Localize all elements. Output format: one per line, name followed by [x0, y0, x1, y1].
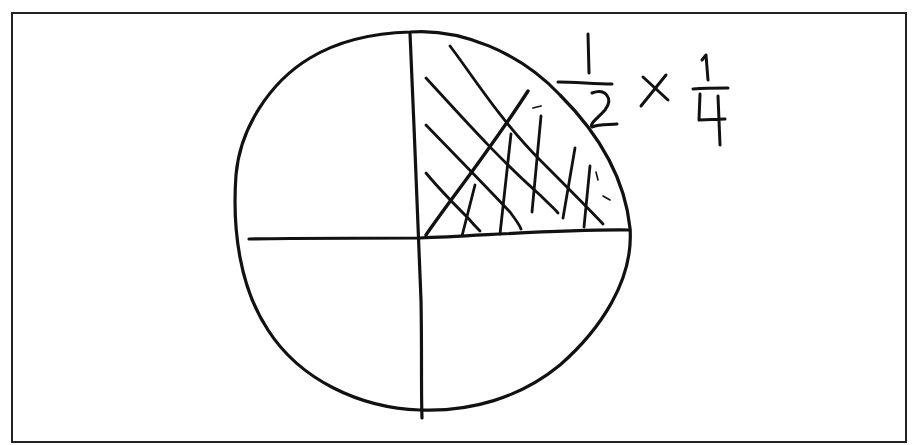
left-denominator-glyph: [591, 92, 617, 127]
vertical-divider: [410, 33, 422, 418]
fraction-label: [558, 34, 728, 145]
diagram-svg: [0, 0, 915, 445]
left-numerator-glyph: [588, 34, 589, 73]
whole-circle: [235, 32, 630, 411]
left-fraction-bar: [558, 82, 612, 84]
multiply-sign: [641, 75, 668, 106]
right-fraction-bar: [693, 88, 728, 89]
frame-border: [12, 13, 906, 442]
diagram-canvas: 1/2 × 1/4 Fraction multiplication area m…: [0, 0, 915, 445]
right-numerator-glyph: [702, 55, 708, 80]
diagonal-hatching: [426, 46, 603, 231]
right-denominator-glyph: [699, 94, 725, 145]
horizontal-divider: [249, 230, 630, 239]
